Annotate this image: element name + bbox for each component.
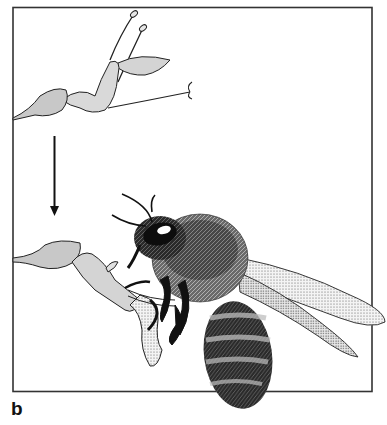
flower-before-visit [13, 10, 192, 120]
bee-abdomen [197, 297, 279, 413]
panel-label: b [11, 399, 23, 419]
illustration [0, 0, 387, 425]
down-arrow [50, 136, 59, 216]
flower-during-visit [13, 241, 175, 366]
bee [112, 194, 385, 413]
